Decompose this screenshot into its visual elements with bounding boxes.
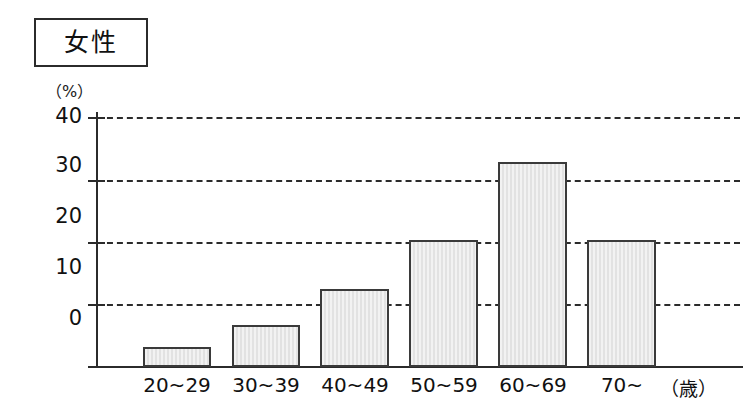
- bar-50-59: [409, 240, 478, 367]
- y-axis-line: [96, 112, 98, 368]
- gridline-40: [97, 117, 740, 119]
- y-axis-label-20: 20: [36, 206, 82, 227]
- x-axis-label-60-69: 60~69: [489, 375, 577, 395]
- x-axis-label-70-plus: 70~: [578, 375, 666, 395]
- y-axis-unit-label: （%）: [46, 78, 93, 102]
- bar-70-plus: [587, 240, 656, 367]
- x-axis-label-20-29: 20~29: [133, 375, 221, 395]
- page-title: 女性: [64, 30, 118, 55]
- x-axis-label-50-59: 50~59: [400, 375, 488, 395]
- y-axis-label-40: 40: [36, 106, 82, 127]
- y-axis-label-0: 0: [36, 308, 82, 329]
- bar-20-29: [143, 347, 211, 367]
- gridline-30: [97, 180, 740, 182]
- y-axis-label-30: 30: [36, 155, 82, 176]
- chart-title-box: 女性: [34, 18, 148, 67]
- bar-30-39: [232, 325, 300, 367]
- y-axis-label-10: 10: [36, 257, 82, 278]
- x-axis-label-40-49: 40~49: [311, 375, 399, 395]
- x-axis-label-30-39: 30~39: [222, 375, 310, 395]
- bar-60-69: [498, 162, 567, 367]
- bar-40-49: [320, 289, 389, 367]
- x-axis-unit-label: （歳）: [660, 374, 717, 401]
